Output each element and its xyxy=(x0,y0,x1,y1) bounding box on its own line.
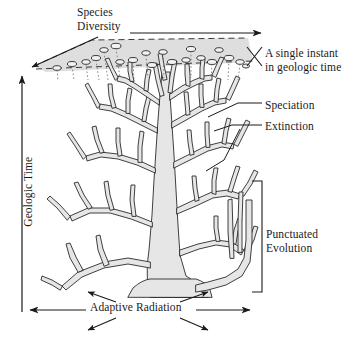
branch-right-high-tip-c xyxy=(199,84,204,107)
branch-right-mid-tip-b xyxy=(228,166,240,192)
label-adaptive-radiation: Adaptive Radiation xyxy=(90,301,182,315)
branch-right-high xyxy=(172,98,226,128)
branch-right-mid-tip-d xyxy=(192,176,199,201)
branch-left-high-tip-b xyxy=(108,84,116,108)
branch-right-top xyxy=(170,75,212,100)
branch-right-upper-tip-a xyxy=(234,120,250,146)
branch-left-upper-tip-b xyxy=(92,126,104,153)
label-punctuated-evolution: Punctuated Evolution xyxy=(266,228,318,255)
branch-left-low-tip-b xyxy=(96,235,109,266)
branch-right-low-tip-c xyxy=(214,216,220,241)
branch-right-high-tip-b xyxy=(214,78,221,102)
branch-left-low-tip-a xyxy=(66,243,83,272)
branch-left-high-tip-d xyxy=(142,96,151,121)
branch-left-top-tip-c xyxy=(144,69,151,91)
punctuated-prong-left xyxy=(228,199,234,258)
branch-right-mid-tip-c xyxy=(212,168,218,194)
branch-left-low-tip-c xyxy=(41,276,62,290)
punctuated-prong-middle xyxy=(238,192,243,252)
label-single-instant: A single instant in geologic time xyxy=(265,47,341,74)
branch-left-mid xyxy=(70,208,152,227)
branch-right-top-tip-b xyxy=(200,59,205,79)
branch-left-upper-tip-a xyxy=(67,132,86,159)
branch-right-upper-tip-c xyxy=(205,122,210,147)
label-extinction: Extinction xyxy=(265,120,314,134)
phylogenetic-tree xyxy=(41,53,258,297)
branch-right-top-tip-c xyxy=(185,64,190,86)
label-geologic-time: Geologic Time xyxy=(22,142,36,242)
branch-right-high-tip-d xyxy=(184,92,190,115)
branch-left-mid-tip-b xyxy=(74,182,92,209)
branch-right-upper-tip-b xyxy=(222,118,231,144)
label-speciation: Speciation xyxy=(265,99,315,113)
branch-left-mid-tip-c xyxy=(104,181,114,210)
evolution-tree-figure: Species Diversity A single instant in ge… xyxy=(0,0,363,343)
branch-left-top xyxy=(117,76,159,105)
branch-left-upper-tip-d xyxy=(138,131,144,162)
branch-left-upper-tip-c xyxy=(116,128,122,156)
branch-left-high-tip-a xyxy=(85,83,100,108)
branch-left-mid-tip-a xyxy=(47,196,70,220)
label-species-diversity: Species Diversity xyxy=(77,6,121,33)
branch-right-upper-tip-d xyxy=(187,130,194,155)
branch-left-high-tip-c xyxy=(126,88,132,113)
tree-trunk xyxy=(147,72,208,297)
branch-left-mid-tip-d xyxy=(130,185,136,216)
branch-right-upper xyxy=(174,142,234,168)
